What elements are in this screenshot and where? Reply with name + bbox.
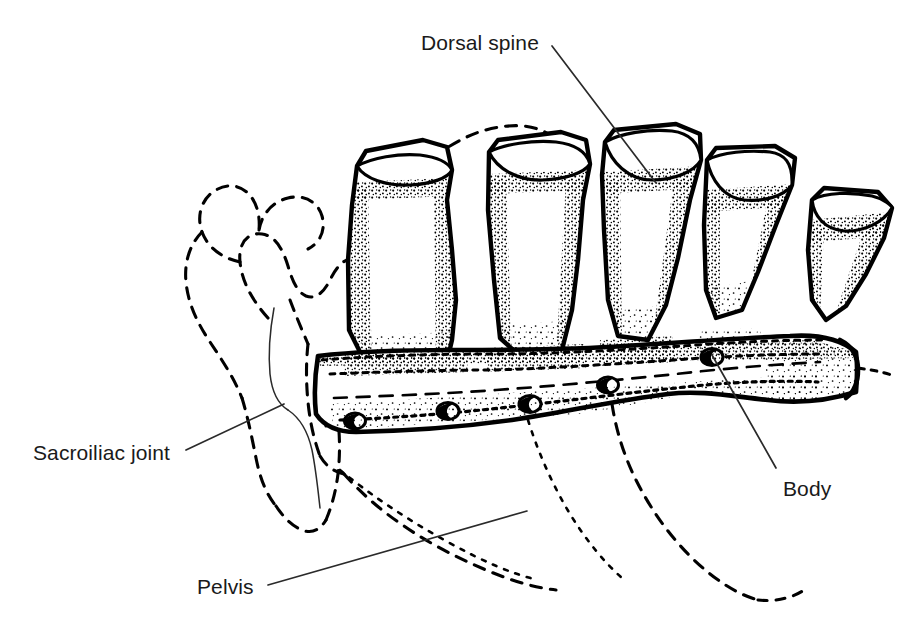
pelvis-inner-dotted xyxy=(340,420,622,580)
label-dorsal-spine: Dorsal spine xyxy=(421,32,539,53)
leader-sacroiliac-joint xyxy=(186,404,284,450)
label-body: Body xyxy=(783,478,831,499)
label-sacroiliac-joint: Sacroiliac joint xyxy=(33,442,170,463)
dorsal-spine-3 xyxy=(600,124,701,342)
dorsal-spine-4 xyxy=(702,146,795,320)
dorsal-spine-5 xyxy=(804,188,892,320)
label-pelvis: Pelvis xyxy=(197,576,254,597)
anatomical-figure: Dorsal spine Sacroiliac joint Body Pelvi… xyxy=(0,0,906,626)
dorsal-spine-2 xyxy=(488,132,590,360)
anatomy-illustration xyxy=(0,0,906,626)
dorsal-spine-1 xyxy=(348,140,458,374)
